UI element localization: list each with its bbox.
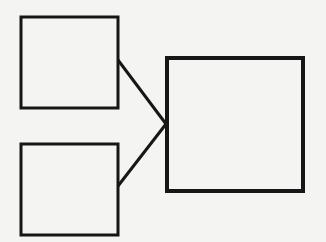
- box-top-left: [21, 17, 118, 108]
- diagram-canvas: [0, 0, 326, 242]
- connector-box-bottom-left-to-box-right: [118, 124, 166, 186]
- box-right: [167, 58, 303, 191]
- connector-box-top-left-to-box-right: [118, 60, 166, 124]
- box-bottom-left: [21, 144, 118, 235]
